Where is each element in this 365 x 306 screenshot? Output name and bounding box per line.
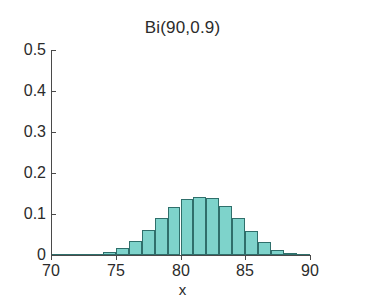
histogram-bar <box>129 241 142 255</box>
x-axis-title: x <box>0 281 365 298</box>
x-axis-tick-label: 70 <box>31 262 71 280</box>
histogram-bar <box>142 230 155 255</box>
y-axis-tick-label: 0.5 <box>6 41 46 59</box>
y-axis-tick-label: 0.4 <box>6 82 46 100</box>
y-axis-tick <box>51 91 56 92</box>
y-axis-tick <box>51 173 56 174</box>
x-axis-tick <box>181 255 182 260</box>
histogram-bar <box>258 242 271 255</box>
histogram-bar <box>168 207 181 255</box>
histogram-bar <box>219 206 232 255</box>
chart-title: Bi(90,0.9) <box>0 18 365 38</box>
histogram-bar <box>193 197 206 255</box>
y-axis-tick-label: 0.2 <box>6 164 46 182</box>
histogram-bar <box>232 218 245 255</box>
x-axis-tick <box>116 255 117 260</box>
histogram-bar <box>181 199 194 255</box>
histogram-bar <box>155 218 168 255</box>
x-axis-tick-label: 85 <box>225 262 265 280</box>
plot-area <box>51 50 310 255</box>
histogram-bars <box>51 50 310 255</box>
histogram-bar <box>245 231 258 255</box>
y-axis-tick-label: 0.1 <box>6 205 46 223</box>
x-axis-tick <box>310 255 311 260</box>
x-axis-tick-label: 75 <box>96 262 136 280</box>
y-axis-tick <box>51 214 56 215</box>
y-axis-tick <box>51 50 56 51</box>
x-axis-tick <box>245 255 246 260</box>
histogram-bar <box>206 198 219 255</box>
x-axis-tick <box>51 255 52 260</box>
x-axis-tick-label: 80 <box>161 262 201 280</box>
binomial-pmf-chart: Bi(90,0.9) 00.10.20.30.40.5 7075808590 x <box>0 0 365 306</box>
y-axis-line <box>51 50 52 256</box>
x-axis-tick-label: 90 <box>290 262 330 280</box>
y-axis-tick <box>51 132 56 133</box>
y-axis-tick-label: 0.3 <box>6 123 46 141</box>
histogram-bar <box>116 248 129 255</box>
